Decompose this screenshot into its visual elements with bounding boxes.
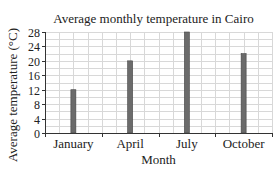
y-tick-label: 4 [34, 113, 40, 127]
bar-july [184, 32, 189, 133]
y-tick-label: 20 [28, 55, 40, 69]
y-tick-label: 8 [34, 98, 40, 112]
x-tick-label: July [176, 136, 198, 151]
y-tick-label: 24 [28, 40, 40, 54]
x-tick-label: October [223, 136, 266, 151]
x-tick-label: April [116, 136, 144, 151]
y-tick-label: 0 [34, 127, 40, 141]
bar-january [71, 90, 76, 133]
plot-area: 0481216202428JanuaryAprilJulyOctober [0, 0, 279, 176]
y-tick-label: 12 [28, 84, 40, 98]
bar-october [241, 54, 246, 133]
bar-april [128, 61, 133, 133]
y-tick-label: 28 [28, 26, 40, 40]
x-tick-label: January [53, 136, 94, 151]
y-tick-label: 16 [28, 69, 40, 83]
